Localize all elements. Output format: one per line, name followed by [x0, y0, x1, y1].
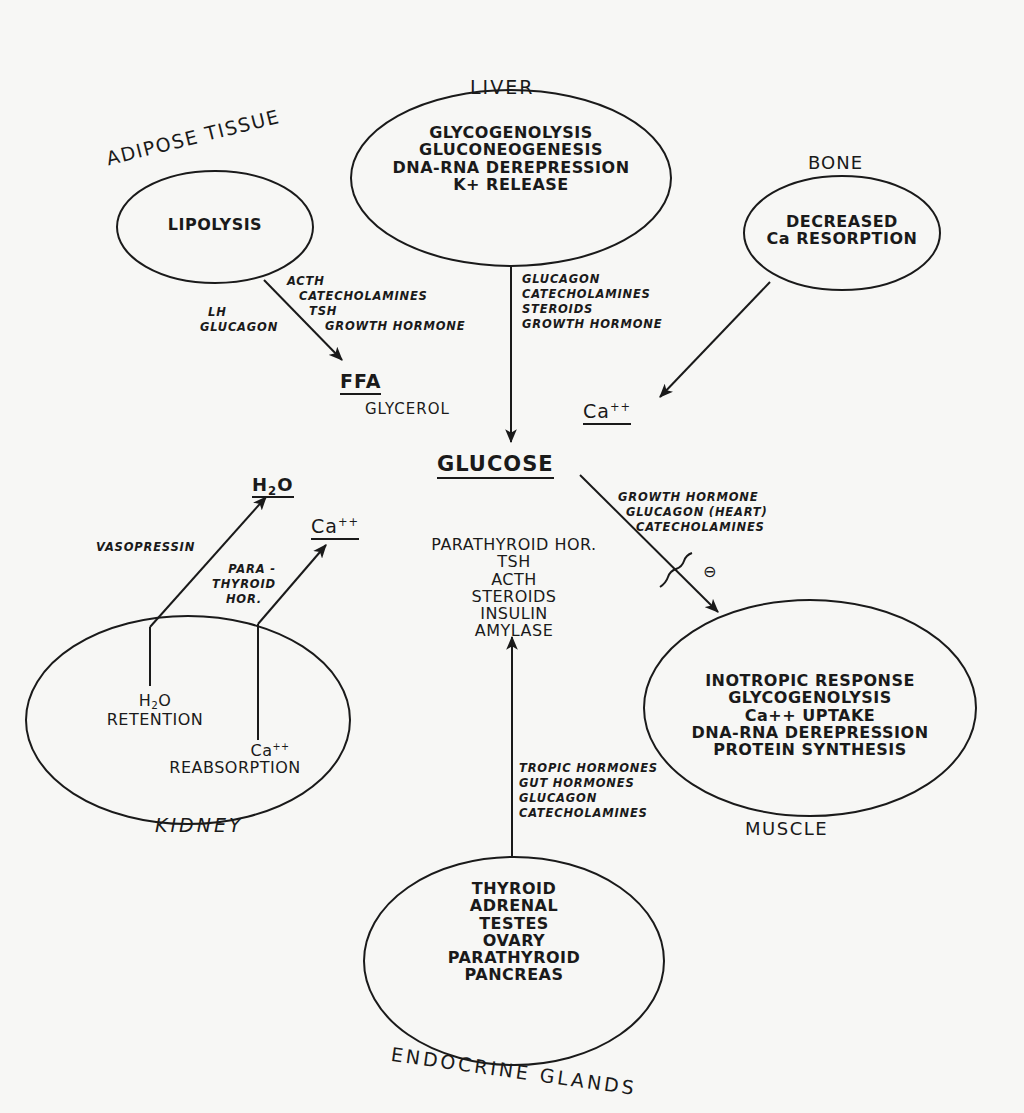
liver-regulators: GLUCAGON CATECHOLAMINES STEROIDS GROWTH …: [522, 272, 662, 332]
muscle-process: Ca++ UPTAKE: [660, 707, 960, 724]
adipose-processes: LIPOLYSIS: [135, 216, 295, 233]
muscle-process: DNA-RNA DEREPRESSION: [660, 724, 960, 741]
endocrine-gland: PARATHYROID: [414, 949, 614, 966]
center-hormones: PARATHYROID HOR. TSH ACTH STEROIDS INSUL…: [384, 536, 644, 640]
endocrine-gland: PANCREAS: [414, 966, 614, 983]
endocrine-gland: TESTES: [414, 915, 614, 932]
liver-title: LIVER: [470, 76, 534, 98]
endocrine-gland: OVARY: [414, 932, 614, 949]
bone-title: BONE: [808, 152, 863, 173]
adipose-regulators-right: ACTH CATECHOLAMINES TSH GROWTH HORMONE: [287, 274, 465, 334]
endocrine-processes: THYROID ADRENAL TESTES OVARY PARATHYROID…: [414, 880, 614, 984]
liver-processes: GLYCOGENOLYSIS GLUCONEOGENESIS DNA-RNA D…: [391, 124, 631, 193]
glucose-label: GLUCOSE: [437, 452, 554, 476]
glycerol-label: GLYCEROL: [365, 400, 450, 418]
liver-process: GLYCOGENOLYSIS: [391, 124, 631, 141]
kidney-h2o-regulator: VASOPRESSIN: [96, 540, 195, 555]
h2o-label: H2O: [252, 474, 294, 498]
liver-process: DNA-RNA DEREPRESSION: [391, 159, 631, 176]
endocrine-regulators: TROPIC HORMONES GUT HORMONES GLUCAGON CA…: [519, 761, 658, 821]
liver-process: GLUCONEOGENESIS: [391, 141, 631, 158]
ffa-label: FFA: [340, 370, 381, 392]
muscle-regulators: GROWTH HORMONE GLUCAGON (HEART) CATECHOL…: [618, 490, 768, 535]
inhibition-minus-icon: ⊖: [703, 562, 717, 581]
arrow-bone-to-ca: [660, 282, 770, 397]
bone-process: Ca RESORPTION: [762, 230, 922, 247]
bone-processes: DECREASED Ca RESORPTION: [762, 213, 922, 248]
endocrine-gland: ADRENAL: [414, 897, 614, 914]
endocrine-gland: THYROID: [414, 880, 614, 897]
ca-kidney-label: Ca++: [311, 515, 359, 537]
center-hormone: PARATHYROID HOR.: [384, 536, 644, 553]
adipose-regulators-left: LH GLUCAGON: [200, 305, 278, 335]
center-hormone: ACTH: [384, 571, 644, 588]
muscle-process: INOTROPIC RESPONSE: [660, 672, 960, 689]
ca-bone-label: Ca++: [583, 400, 631, 422]
adipose-process: LIPOLYSIS: [135, 216, 295, 233]
center-hormone: TSH: [384, 553, 644, 570]
kidney-h2o-retention: H2O RETENTION: [90, 692, 220, 729]
center-hormone: STEROIDS: [384, 588, 644, 605]
center-hormone: INSULIN: [384, 605, 644, 622]
muscle-title: MUSCLE: [745, 818, 828, 839]
bone-process: DECREASED: [762, 213, 922, 230]
muscle-process: GLYCOGENOLYSIS: [660, 689, 960, 706]
muscle-processes: INOTROPIC RESPONSE GLYCOGENOLYSIS Ca++ U…: [660, 672, 960, 758]
center-hormone: AMYLASE: [384, 622, 644, 639]
kidney-title: KIDNEY: [155, 814, 244, 836]
liver-process: K+ RELEASE: [391, 176, 631, 193]
kidney-ca-regulator: PARA - THYROID HOR.: [212, 562, 276, 607]
kidney-ca-reabsorption: Ca++ REABSORPTION: [145, 742, 325, 777]
muscle-process: PROTEIN SYNTHESIS: [660, 741, 960, 758]
